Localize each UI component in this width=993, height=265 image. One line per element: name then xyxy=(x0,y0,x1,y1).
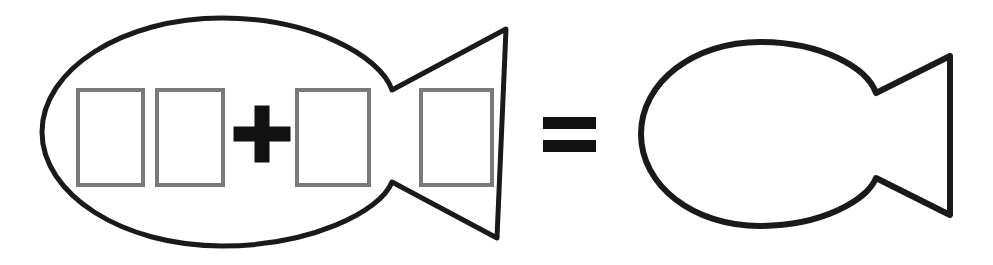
left-fish-group xyxy=(42,18,506,246)
card-2[interactable] xyxy=(157,90,223,185)
equals-bar-top xyxy=(543,117,596,129)
right-fish-group xyxy=(641,42,950,226)
card-1[interactable] xyxy=(78,90,143,185)
plus-icon xyxy=(234,106,291,163)
card-4[interactable] xyxy=(421,90,492,185)
equals-bar-bottom xyxy=(543,140,596,152)
card-3[interactable] xyxy=(297,90,369,185)
fish-equation-diagram xyxy=(0,0,993,265)
diagram-canvas: Fish plus fish equals fish diagram fish … xyxy=(0,0,993,265)
equals-sign xyxy=(543,117,596,152)
right-fish-outline xyxy=(641,42,950,226)
